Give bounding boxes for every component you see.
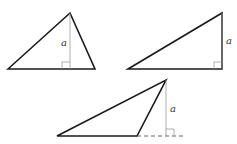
triangle-outline (128, 13, 222, 69)
triangle-outline (8, 13, 95, 69)
triangles-diagram: a a a (0, 0, 237, 144)
obtuse-triangle: a (57, 80, 184, 136)
height-label: a (226, 35, 232, 46)
height-label: a (170, 103, 176, 114)
right-angle-marker (62, 62, 70, 69)
acute-triangle: a (8, 13, 95, 69)
triangle-outline (57, 80, 166, 136)
height-label: a (61, 37, 67, 48)
right-angle-marker (214, 62, 222, 69)
right-triangle: a (128, 13, 232, 69)
right-angle-marker (166, 129, 174, 136)
